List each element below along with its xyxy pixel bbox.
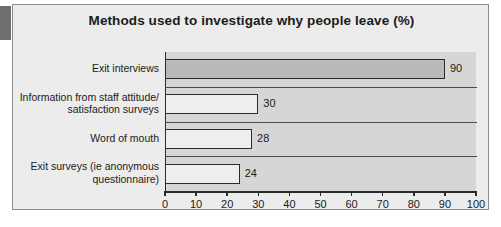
- bar-value-label: 28: [257, 132, 269, 144]
- x-tick-mark: [226, 191, 228, 196]
- category-label: Word of mouth: [9, 132, 159, 145]
- category-label-line: Information from staff attitude/: [9, 91, 159, 104]
- x-tick-label: 50: [306, 198, 336, 210]
- bar: [165, 59, 445, 79]
- x-tick-label: 20: [212, 198, 242, 210]
- category-label: Exit interviews: [9, 62, 159, 75]
- bar-value-label: 24: [245, 167, 257, 179]
- chart-card: Methods used to investigate why people l…: [12, 4, 489, 210]
- x-tick-label: 30: [243, 198, 273, 210]
- category-label-line: Exit surveys (ie anonymous: [9, 160, 159, 173]
- x-tick-label: 60: [337, 198, 367, 210]
- x-tick-mark: [444, 191, 446, 196]
- x-tick-label: 40: [274, 198, 304, 210]
- x-tick-label: 100: [461, 198, 491, 210]
- band-separator: [165, 87, 477, 88]
- x-tick-mark: [413, 191, 415, 196]
- x-tick-mark: [475, 191, 477, 196]
- x-tick-label: 70: [368, 198, 398, 210]
- x-tick-mark: [289, 191, 291, 196]
- category-label-line: Word of mouth: [9, 132, 159, 145]
- bar: [165, 164, 240, 184]
- category-label: Information from staff attitude/satisfac…: [9, 91, 159, 116]
- category-label-line: questionnaire): [9, 173, 159, 186]
- band-separator: [165, 122, 477, 123]
- category-label-line: satisfaction surveys: [9, 103, 159, 116]
- x-tick-mark: [258, 191, 260, 196]
- x-tick-label: 80: [399, 198, 429, 210]
- category-label-line: Exit interviews: [9, 62, 159, 75]
- x-tick-label: 0: [150, 198, 180, 210]
- x-tick-mark: [164, 191, 166, 196]
- bar-value-label: 90: [450, 62, 462, 74]
- x-tick-label: 90: [430, 198, 460, 210]
- x-tick-mark: [195, 191, 197, 196]
- band-separator: [165, 156, 477, 157]
- left-accent-block: [0, 6, 11, 40]
- category-label: Exit surveys (ie anonymousquestionnaire): [9, 160, 159, 185]
- x-tick-label: 10: [181, 198, 211, 210]
- x-tick-mark: [351, 191, 353, 196]
- bar: [165, 129, 252, 149]
- x-tick-mark: [320, 191, 322, 196]
- x-tick-mark: [382, 191, 384, 196]
- bar: [165, 94, 258, 114]
- bar-value-label: 30: [263, 97, 275, 109]
- chart-title: Methods used to investigate why people l…: [13, 13, 490, 28]
